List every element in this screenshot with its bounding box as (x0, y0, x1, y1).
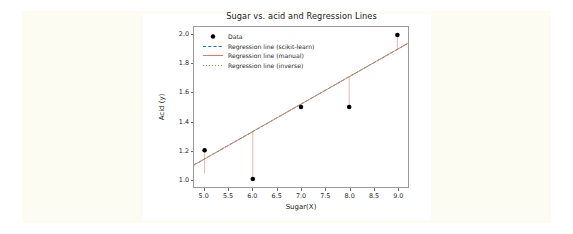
y-tick-mark (191, 180, 194, 181)
page-surround: Sugar vs. acid and Regression Lines 5.05… (0, 0, 573, 234)
x-tick-label: 7.5 (320, 192, 330, 200)
x-tick-label: 9.0 (393, 192, 403, 200)
x-tick-label: 8.5 (369, 192, 379, 200)
y-tick-label: 1.2 (176, 147, 189, 155)
data-point (395, 33, 400, 38)
x-tick-label: 5.0 (199, 192, 209, 200)
x-tick-label: 8.0 (345, 192, 355, 200)
legend-item: Regression line (scikit-learn) (202, 43, 314, 50)
x-tick-mark (398, 188, 399, 191)
legend-label: Data (228, 33, 243, 40)
data-point (299, 105, 304, 110)
data-point (251, 177, 256, 182)
x-tick-mark (277, 188, 278, 191)
y-tick-label: 1.8 (176, 59, 189, 67)
legend-item: Regression line (inverse) (202, 62, 314, 69)
chart-figure: Sugar vs. acid and Regression Lines 5.05… (0, 0, 573, 234)
legend-label: Regression line (inverse) (228, 62, 303, 69)
legend-label: Regression line (manual) (228, 52, 304, 59)
y-tick-label: 1.6 (176, 88, 189, 96)
y-tick-label: 2.0 (176, 30, 189, 38)
marker-dot (211, 34, 215, 38)
x-tick-label: 6.0 (247, 192, 257, 200)
y-tick-mark (191, 34, 194, 35)
legend-solid-line-icon (202, 52, 224, 59)
x-axis-label: Sugar(X) (193, 203, 409, 211)
chart-legend: DataRegression line (scikit-learn)Regres… (198, 30, 319, 72)
y-tick-mark (191, 151, 194, 152)
x-tick-label: 7.0 (296, 192, 306, 200)
x-tick-mark (228, 188, 229, 191)
x-tick-mark (374, 188, 375, 191)
x-tick-mark (325, 188, 326, 191)
y-tick-mark (191, 92, 194, 93)
x-tick-mark (301, 188, 302, 191)
legend-dashed-line-icon (202, 43, 224, 50)
y-axis-label: Acid (y) (158, 94, 166, 121)
legend-circle-icon (202, 33, 224, 40)
x-tick-label: 5.5 (223, 192, 233, 200)
legend-item: Regression line (manual) (202, 52, 314, 59)
data-point (202, 148, 207, 153)
legend-dotted-line-icon (202, 62, 224, 69)
x-tick-mark (350, 188, 351, 191)
y-tick-label: 1.4 (176, 118, 189, 126)
x-tick-mark (204, 188, 205, 191)
data-point (347, 105, 352, 110)
y-tick-mark (191, 122, 194, 123)
y-tick-mark (191, 63, 194, 64)
chart-title: Sugar vs. acid and Regression Lines (193, 11, 410, 21)
y-tick-label: 1.0 (176, 176, 189, 184)
x-tick-mark (252, 188, 253, 191)
legend-label: Regression line (scikit-learn) (228, 43, 314, 50)
x-tick-label: 6.5 (272, 192, 282, 200)
legend-item: Data (202, 33, 314, 40)
